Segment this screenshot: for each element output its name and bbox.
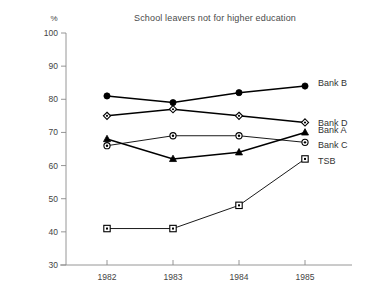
- series-label-bank-c: Bank C: [318, 140, 348, 150]
- data-point-marker: [236, 90, 242, 96]
- x-tick-label: 1985: [296, 272, 315, 282]
- x-tick-label: 1982: [98, 272, 117, 282]
- series-bank-b: [104, 83, 308, 106]
- x-tick-label: 1984: [230, 272, 249, 282]
- data-point-marker: [235, 112, 242, 119]
- data-point-marker: [104, 143, 110, 149]
- y-axis-unit-label: %: [50, 14, 57, 23]
- data-point-marker: [302, 129, 309, 135]
- data-point-marker: [302, 139, 308, 145]
- data-point-marker: [170, 225, 176, 231]
- y-tick-label: 70: [49, 127, 59, 137]
- data-point-marker: [302, 83, 308, 89]
- y-tick-label: 80: [49, 94, 59, 104]
- line-chart: School leavers not for higher education …: [0, 0, 385, 295]
- data-point-marker: [104, 225, 110, 231]
- data-point-marker: [236, 133, 242, 139]
- series-bank-a: [104, 129, 309, 162]
- data-point-marker: [170, 133, 176, 139]
- y-tick-label: 90: [49, 61, 59, 71]
- data-point-marker: [170, 100, 176, 106]
- series-label-bank-a: Bank A: [318, 125, 347, 135]
- series-label-tsb: TSB: [318, 156, 336, 166]
- data-point-marker: [301, 119, 308, 126]
- y-axis-ticks: 30405060708090100: [44, 28, 66, 270]
- data-point-marker: [302, 156, 308, 162]
- chart-title: School leavers not for higher education: [134, 13, 296, 23]
- y-tick-label: 60: [49, 161, 59, 171]
- x-axis-ticks: 1982198319841985: [98, 260, 315, 282]
- series-tsb: [104, 156, 308, 232]
- y-tick-label: 30: [49, 260, 59, 270]
- plot-area-series: [103, 83, 308, 232]
- series-labels: Bank BBank DBank ABank CTSB: [318, 78, 348, 166]
- y-tick-label: 50: [49, 194, 59, 204]
- series-label-bank-b: Bank B: [318, 78, 347, 88]
- y-tick-label: 100: [44, 28, 58, 38]
- data-point-marker: [103, 112, 110, 119]
- series-bank-d: [103, 106, 308, 126]
- data-point-marker: [104, 135, 111, 141]
- y-tick-label: 40: [49, 227, 59, 237]
- data-point-marker: [104, 93, 110, 99]
- data-point-marker: [236, 202, 242, 208]
- chart-container: School leavers not for higher education …: [0, 0, 385, 295]
- x-tick-label: 1983: [164, 272, 183, 282]
- data-point-marker: [169, 106, 176, 113]
